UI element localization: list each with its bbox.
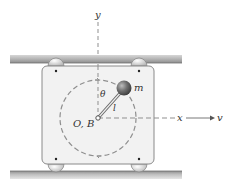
top-rail <box>10 55 182 63</box>
velocity-arrowhead <box>210 116 215 121</box>
axle-dot-bottom-left <box>55 158 57 160</box>
axle-dot-bottom-right <box>138 158 140 160</box>
y-axis-label: y <box>94 9 101 20</box>
length-label: l <box>113 103 116 113</box>
mass-label: m <box>134 82 143 93</box>
x-axis-label: x <box>177 112 183 123</box>
pivot-point <box>96 116 100 120</box>
bottom-rail <box>10 171 182 179</box>
pendulum-cart-diagram: y x v m θ l O, B <box>0 0 234 187</box>
origin-label: O, B <box>73 118 94 129</box>
velocity-label: v <box>217 112 223 123</box>
axle-dot-top-left <box>55 70 57 72</box>
angle-label: θ <box>100 89 106 99</box>
pendulum-mass-ball <box>117 81 132 96</box>
axle-dot-top-right <box>138 70 140 72</box>
